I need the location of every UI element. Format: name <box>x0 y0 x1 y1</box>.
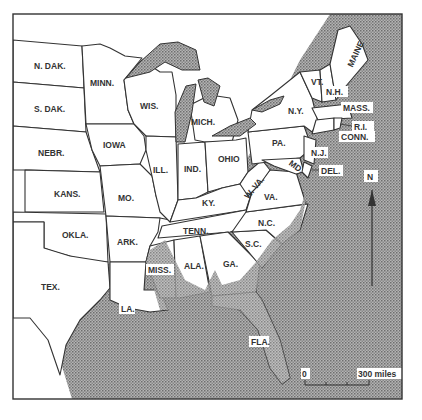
label-minn: MINN. <box>90 78 114 88</box>
label-pa: PA. <box>272 138 286 148</box>
label-conn: CONN. <box>341 132 368 142</box>
label-ind: IND. <box>184 164 201 174</box>
north-arrow-label: N <box>367 172 373 182</box>
label-ky: KY. <box>202 198 215 208</box>
label-ndak: N. DAK. <box>34 61 66 71</box>
label-kans: KANS. <box>54 189 80 199</box>
scale-end-label: 300 miles <box>358 369 397 379</box>
label-iowa: IOWA <box>103 140 126 150</box>
label-sdak: S. DAK. <box>34 104 65 114</box>
label-ohio: OHIO <box>218 154 240 164</box>
scale-start-label: 0 <box>302 369 307 379</box>
label-wis: WIS. <box>140 101 158 111</box>
label-fla: FLA. <box>251 337 270 347</box>
label-mo: MO. <box>118 193 134 203</box>
label-okla: OKLA. <box>62 230 88 240</box>
label-ark: ARK. <box>117 237 138 247</box>
label-ga: GA. <box>223 259 238 269</box>
label-mass: MASS. <box>343 103 370 113</box>
label-del: DEL. <box>321 166 340 176</box>
label-nj: N.J. <box>311 148 327 158</box>
label-ala: ALA. <box>184 261 204 271</box>
label-ill: ILL. <box>153 165 168 175</box>
label-nc: N.C. <box>258 218 275 228</box>
label-sc: S.C. <box>245 239 262 249</box>
label-va: VA. <box>264 192 278 202</box>
label-ny: N.Y. <box>288 106 304 116</box>
label-tex: TEX. <box>41 282 60 292</box>
label-mich: MICH. <box>191 117 215 127</box>
label-nh: N.H. <box>326 87 343 97</box>
label-nebr: NEBR. <box>38 148 64 158</box>
label-miss: MISS. <box>148 265 171 275</box>
label-vt: VT. <box>311 77 323 87</box>
label-ri: R.I. <box>354 122 367 132</box>
label-la: LA. <box>121 304 135 314</box>
label-tenn: TENN. <box>183 226 209 236</box>
map: N 0 300 miles N. DAK. S. DAK. NEBR. KANS… <box>0 0 422 420</box>
